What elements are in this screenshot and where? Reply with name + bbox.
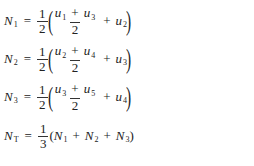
term-n1-sub: 1 xyxy=(63,135,67,144)
lhs-symbol: N xyxy=(4,13,13,29)
term-b: u xyxy=(84,81,91,96)
fraction-numerator: 1 xyxy=(38,122,49,136)
lhs-subscript: T xyxy=(14,135,19,144)
inner-denominator: 2 xyxy=(70,60,81,75)
plus-sign: + xyxy=(103,51,110,67)
coefficient-fraction: 1 2 xyxy=(37,83,48,112)
right-paren: ) xyxy=(126,83,131,111)
term-n3-sub: 3 xyxy=(125,135,129,144)
right-paren: ) xyxy=(126,45,131,73)
term-b-sub: 4 xyxy=(91,51,95,60)
right-paren: ) xyxy=(129,128,133,144)
term-n2: N xyxy=(85,128,94,144)
term-a-sub: 3 xyxy=(62,89,66,98)
inner-fraction: u2+u4 2 xyxy=(53,44,97,75)
equation-n2: N2 = 1 2 ( u2+u4 2 + u3 ) xyxy=(4,41,130,77)
inner-numerator: u3+u5 xyxy=(53,82,97,98)
inner-fraction: u3+u5 2 xyxy=(53,82,97,113)
plus-sign: + xyxy=(103,13,110,29)
term-n3: N xyxy=(116,128,125,144)
term-b: u xyxy=(84,43,91,58)
plus-sign: + xyxy=(72,128,79,144)
term-a: u xyxy=(55,5,62,20)
equation-n3: N3 = 1 2 ( u3+u5 2 + u4 ) xyxy=(4,79,130,115)
plus-sign: + xyxy=(71,43,78,58)
lhs-symbol: N xyxy=(4,89,13,105)
left-paren: ( xyxy=(48,45,53,73)
equals-sign: = xyxy=(24,89,31,105)
term-a-sub: 1 xyxy=(62,13,66,22)
fraction-numerator: 1 xyxy=(37,83,48,97)
lhs-subscript: 2 xyxy=(14,58,18,67)
plus-sign: + xyxy=(71,81,78,96)
lhs-symbol: N xyxy=(4,128,13,144)
plus-sign: + xyxy=(71,5,78,20)
coefficient-fraction: 1 2 xyxy=(37,45,48,74)
term-a-sub: 2 xyxy=(62,51,66,60)
inner-fraction: u1+u3 2 xyxy=(53,6,97,37)
equals-sign: = xyxy=(24,13,31,29)
term-c: u xyxy=(116,13,123,29)
term-c: u xyxy=(116,89,123,105)
left-paren: ( xyxy=(48,7,53,35)
term-n1: N xyxy=(54,128,63,144)
fraction-numerator: 1 xyxy=(37,7,48,21)
fraction-denominator: 2 xyxy=(37,21,48,36)
fraction-numerator: 1 xyxy=(37,45,48,59)
inner-denominator: 2 xyxy=(70,98,81,113)
term-c: u xyxy=(116,51,123,67)
term-n2-sub: 2 xyxy=(94,135,98,144)
plus-sign: + xyxy=(103,89,110,105)
lhs-symbol: N xyxy=(4,51,13,67)
lhs-subscript: 3 xyxy=(14,96,18,105)
term-a: u xyxy=(55,43,62,58)
left-paren: ( xyxy=(48,83,53,111)
fraction-denominator: 2 xyxy=(37,59,48,74)
term-b-sub: 5 xyxy=(91,89,95,98)
term-b-sub: 3 xyxy=(91,13,95,22)
equals-sign: = xyxy=(24,51,31,67)
inner-numerator: u2+u4 xyxy=(53,44,97,60)
plus-sign: + xyxy=(103,128,110,144)
equation-n1: N1 = 1 2 ( u1+u3 2 + u2 ) xyxy=(4,3,130,39)
lhs-subscript: 1 xyxy=(14,20,18,29)
term-a: u xyxy=(55,81,62,96)
right-paren: ) xyxy=(126,7,131,35)
equals-sign: = xyxy=(25,128,32,144)
coefficient-fraction: 1 2 xyxy=(37,7,48,36)
fraction-denominator: 3 xyxy=(38,136,49,151)
equation-total: NT = 1 3 (N1 + N2 + N3) xyxy=(4,118,134,154)
coefficient-fraction: 1 3 xyxy=(38,122,49,151)
term-b: u xyxy=(84,5,91,20)
inner-numerator: u1+u3 xyxy=(53,6,97,22)
inner-denominator: 2 xyxy=(70,22,81,37)
fraction-denominator: 2 xyxy=(37,97,48,112)
